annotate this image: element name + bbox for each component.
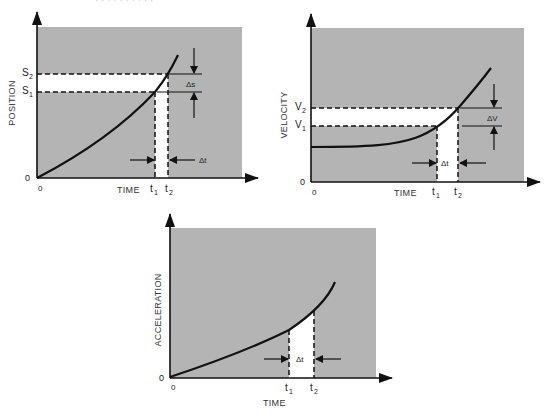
velocity-origin-x: 0 bbox=[312, 188, 317, 197]
v1-label: V 1 bbox=[295, 119, 306, 132]
acceleration-origin-y: 0 bbox=[159, 373, 164, 383]
velocity-horizontal-band bbox=[311, 108, 458, 126]
svg-text:S: S bbox=[22, 85, 29, 96]
acceleration-plot-area bbox=[170, 228, 376, 378]
svg-text:2: 2 bbox=[302, 107, 306, 114]
acceleration-panel: Δt ACCELERATION 0 0 TIME t 1 t 2 bbox=[153, 214, 392, 408]
svg-text:2: 2 bbox=[458, 192, 462, 199]
position-x-label: TIME bbox=[117, 185, 140, 195]
s1-label: S 1 bbox=[22, 85, 33, 98]
velocity-plot-area bbox=[311, 28, 524, 182]
svg-text:t: t bbox=[454, 186, 457, 197]
vt2-label: t 2 bbox=[454, 186, 462, 199]
svg-text:1: 1 bbox=[436, 192, 440, 199]
svg-text:t: t bbox=[432, 186, 435, 197]
velocity-delta-t-label: Δt bbox=[441, 159, 449, 168]
svg-text:2: 2 bbox=[29, 73, 33, 80]
position-y-label: POSITION bbox=[7, 80, 17, 125]
svg-text:V: V bbox=[295, 119, 302, 130]
svg-text:1: 1 bbox=[302, 125, 306, 132]
svg-text:t: t bbox=[310, 382, 313, 393]
delta-v-label: ΔV bbox=[487, 114, 498, 123]
delta-s-label: Δs bbox=[186, 80, 195, 89]
svg-text:V: V bbox=[295, 101, 302, 112]
svg-text:S: S bbox=[22, 67, 29, 78]
velocity-panel: ΔV Δt VELOCITY 0 0 TIME V 2 V 1 t 1 t 2 bbox=[279, 14, 540, 199]
svg-text:1: 1 bbox=[29, 91, 33, 98]
position-origin-y: 0 bbox=[25, 173, 30, 183]
acceleration-x-label: TIME bbox=[263, 398, 286, 408]
position-panel: Δs Δt POSITION 0 0 TIME S 2 S 1 t 1 t 2 bbox=[7, 12, 258, 196]
at2-label: t 2 bbox=[310, 382, 318, 395]
svg-text:1: 1 bbox=[289, 388, 293, 395]
svg-text:t: t bbox=[165, 183, 168, 194]
position-plot-area bbox=[37, 27, 242, 178]
delta-t-label: Δt bbox=[199, 156, 207, 165]
velocity-y-label: VELOCITY bbox=[279, 92, 289, 139]
acceleration-delta-t-label: Δt bbox=[296, 355, 304, 364]
svg-text:1: 1 bbox=[154, 189, 158, 196]
s2-label: S 2 bbox=[22, 67, 33, 80]
svg-text:t: t bbox=[150, 183, 153, 194]
position-horizontal-band bbox=[37, 74, 168, 92]
kinematics-diagram: · · · · · · · · · · Δs Δt POSITION 0 0 bbox=[0, 0, 548, 418]
t1-label: t 1 bbox=[150, 183, 158, 196]
acceleration-origin-x: 0 bbox=[171, 383, 176, 392]
vt1-label: t 1 bbox=[432, 186, 440, 199]
acceleration-y-label: ACCELERATION bbox=[153, 274, 163, 347]
velocity-x-label: TIME bbox=[394, 188, 417, 198]
svg-text:2: 2 bbox=[314, 388, 318, 395]
cropped-caption: · · · · · · · · · · bbox=[95, 0, 153, 6]
at1-label: t 1 bbox=[285, 382, 293, 395]
position-origin-x: 0 bbox=[38, 184, 43, 193]
svg-text:t: t bbox=[285, 382, 288, 393]
v2-label: V 2 bbox=[295, 101, 306, 114]
velocity-origin-y: 0 bbox=[300, 177, 305, 187]
t2-label: t 2 bbox=[165, 183, 173, 196]
svg-text:2: 2 bbox=[169, 189, 173, 196]
